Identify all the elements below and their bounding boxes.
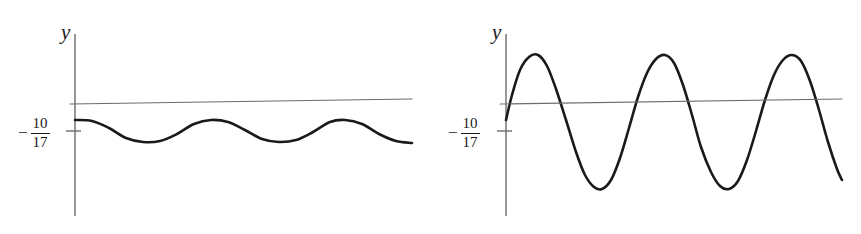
oscillating-curve-right [506, 54, 842, 189]
secant-line-left [70, 99, 412, 104]
fraction-numerator-left: 10 [32, 116, 49, 133]
y-axis-caption-left: y [61, 22, 70, 43]
large-amplitude-graph-panel: y − 10 17 [430, 0, 861, 234]
minus-sign-left: − [18, 124, 28, 141]
fraction-ten-seventeenths-left: 10 17 [31, 116, 50, 151]
tick-label-right: − 10 17 [448, 116, 480, 151]
secant-line-right [500, 99, 842, 104]
oscillating-curve-left [75, 120, 412, 143]
fraction-denominator-right: 17 [462, 134, 479, 151]
y-axis-caption-right: y [492, 22, 501, 43]
minus-sign-right: − [448, 124, 458, 141]
small-amplitude-graph-panel: y − 10 17 [0, 0, 430, 234]
fraction-denominator-left: 17 [32, 134, 49, 151]
fraction-numerator-right: 10 [462, 116, 479, 133]
fraction-ten-seventeenths-right: 10 17 [461, 116, 480, 151]
tick-label-left: − 10 17 [18, 116, 50, 151]
graph-figure-pair: y − 10 17 y − 10 17 [0, 0, 861, 234]
